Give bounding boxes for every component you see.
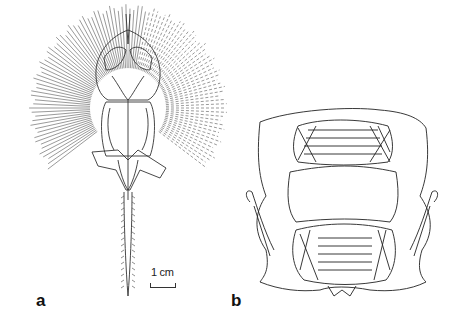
panel-label-a: a (36, 292, 45, 309)
panel-label-b: b (231, 292, 241, 309)
figure-panel-b (230, 100, 456, 326)
jaw-apparatus-drawing (230, 100, 456, 326)
scale-bar (150, 283, 176, 288)
figure-panel-a: 1 cm (0, 0, 230, 326)
scale-bar-label: 1 cm (151, 267, 174, 278)
ray-skeleton-drawing (0, 0, 230, 326)
